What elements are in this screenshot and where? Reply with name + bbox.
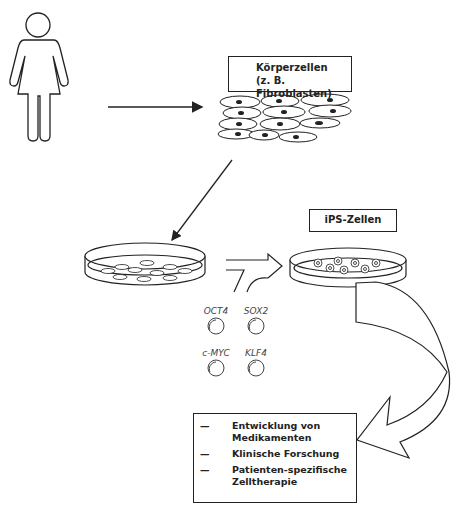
somatic-cells-title: Körperzellen [256, 61, 351, 74]
curved-arrow-icon [356, 282, 450, 458]
culture-dish-fibroblasts-icon [85, 243, 205, 285]
fibroblast-cells-icon [218, 94, 351, 142]
somatic-cells-example: (z. B. Fibroblasten) [256, 74, 351, 100]
application-drug-development: Entwicklung von Medikamenten [232, 420, 352, 444]
bullet-dash: — [200, 464, 232, 488]
arrow-to-culture-dish [172, 160, 232, 240]
culture-dish-ips-icon [290, 248, 406, 287]
woman-icon [10, 13, 68, 141]
application-cell-therapy: Patienten-spezifische Zelltherapie [232, 464, 352, 488]
ips-cells-title: iPS-Zellen [325, 214, 382, 225]
applications-box: — Entwicklung von Medikamenten — Klinisc… [193, 413, 357, 503]
factor-label-klf4: KLF4 [236, 348, 276, 358]
application-clinical-research: Klinische Forschung [232, 448, 339, 460]
factor-label-oct4: OCT4 [196, 306, 236, 316]
bullet-dash: — [200, 448, 232, 460]
application-item: — Klinische Forschung [200, 448, 352, 460]
somatic-cells-label: Körperzellen (z. B. Fibroblasten) [228, 56, 352, 92]
factor-vials-icon [208, 318, 264, 376]
bullet-dash: — [200, 420, 232, 444]
application-item: — Patienten-spezifische Zelltherapie [200, 464, 352, 488]
reprogramming-arrow-icon [226, 254, 282, 292]
ips-cells-label: iPS-Zellen [309, 209, 397, 232]
factor-label-cmyc: c-MYC [196, 348, 236, 358]
application-item: — Entwicklung von Medikamenten [200, 420, 352, 444]
factor-label-sox2: SOX2 [236, 306, 276, 316]
